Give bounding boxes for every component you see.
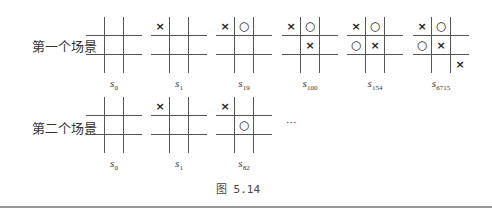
grid-line-vertical xyxy=(123,17,124,73)
grid-line-horizontal xyxy=(282,54,338,55)
cross-mark-icon: × xyxy=(347,17,365,35)
grid-line-horizontal xyxy=(86,134,142,135)
grid-line-horizontal xyxy=(216,54,272,55)
circle-mark-icon: ○ xyxy=(235,17,253,35)
grid-line-vertical xyxy=(319,17,320,73)
grid-line-horizontal xyxy=(151,115,207,116)
figure-caption: 图 5.14 xyxy=(216,180,260,196)
tictactoe-board: ×○ xyxy=(216,97,272,153)
state-label: s82 xyxy=(216,157,272,172)
bottom-rule xyxy=(0,206,492,208)
grid-line-vertical xyxy=(253,17,254,73)
cross-mark-icon: × xyxy=(366,36,384,54)
tictactoe-board: ×○○×× xyxy=(413,17,469,73)
grid-line-horizontal xyxy=(86,115,142,116)
grid-line-horizontal xyxy=(151,134,207,135)
grid-line-vertical xyxy=(188,17,189,73)
grid-line-vertical xyxy=(169,17,170,73)
tictactoe-board: ×○× xyxy=(282,17,338,73)
circle-mark-icon: ○ xyxy=(301,17,319,35)
cross-mark-icon: × xyxy=(216,97,234,115)
grid-line-horizontal xyxy=(86,54,142,55)
grid-line-vertical xyxy=(104,17,105,73)
circle-mark-icon: ○ xyxy=(413,36,431,54)
state-label: s19 xyxy=(216,77,272,92)
circle-mark-icon: ○ xyxy=(347,36,365,54)
grid-line-vertical xyxy=(169,97,170,153)
cross-mark-icon: × xyxy=(451,55,469,73)
tictactoe-board: ×○ xyxy=(216,17,272,73)
state-label: s0 xyxy=(86,77,142,92)
ellipsis: ··· xyxy=(286,117,297,130)
grid-line-horizontal xyxy=(86,35,142,36)
circle-mark-icon: ○ xyxy=(235,116,253,134)
grid-line-horizontal xyxy=(216,134,272,135)
state-label: s154 xyxy=(347,77,403,92)
cross-mark-icon: × xyxy=(282,17,300,35)
grid-line-vertical xyxy=(384,17,385,73)
tictactoe-board: × xyxy=(151,17,207,73)
cross-mark-icon: × xyxy=(432,36,450,54)
state-label: s0 xyxy=(86,157,142,172)
grid-line-horizontal xyxy=(216,35,272,36)
grid-line-vertical xyxy=(123,97,124,153)
circle-mark-icon: ○ xyxy=(432,17,450,35)
state-label: s1 xyxy=(151,77,207,92)
grid-line-vertical xyxy=(253,97,254,153)
grid-line-vertical xyxy=(104,97,105,153)
tictactoe-board xyxy=(86,17,142,73)
cross-mark-icon: × xyxy=(216,17,234,35)
tictactoe-board: ×○○× xyxy=(347,17,403,73)
grid-line-vertical xyxy=(188,97,189,153)
cross-mark-icon: × xyxy=(413,17,431,35)
state-label: s1 xyxy=(151,157,207,172)
grid-line-horizontal xyxy=(151,35,207,36)
tictactoe-board xyxy=(86,97,142,153)
state-label: s6715 xyxy=(413,77,469,92)
cross-mark-icon: × xyxy=(301,36,319,54)
grid-line-horizontal xyxy=(347,54,403,55)
cross-mark-icon: × xyxy=(151,17,169,35)
circle-mark-icon: ○ xyxy=(366,17,384,35)
tictactoe-board: × xyxy=(151,97,207,153)
state-label: s100 xyxy=(282,77,338,92)
grid-line-horizontal xyxy=(151,54,207,55)
cross-mark-icon: × xyxy=(151,97,169,115)
